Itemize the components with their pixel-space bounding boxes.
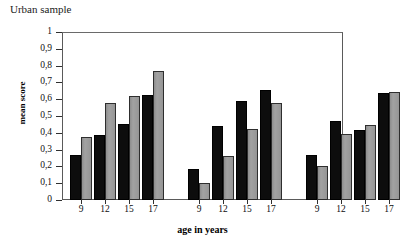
y-tick-label: 0,2 bbox=[0, 161, 52, 171]
bar-black bbox=[330, 121, 341, 200]
y-tick-mark bbox=[56, 200, 62, 201]
x-tick-label: 15 bbox=[234, 204, 260, 215]
y-tick-label: 0,6 bbox=[0, 94, 52, 104]
y-tick-label: 0,1 bbox=[0, 178, 52, 188]
bar-gray bbox=[317, 166, 328, 200]
bar-black bbox=[94, 135, 105, 200]
bar-black bbox=[260, 90, 271, 200]
bar-black bbox=[236, 101, 247, 200]
x-axis-title: age in years bbox=[62, 224, 343, 235]
bar-black bbox=[142, 95, 153, 200]
x-tick-label: 12 bbox=[328, 204, 354, 215]
x-tick-label: 9 bbox=[186, 204, 212, 215]
bar-gray bbox=[341, 134, 352, 200]
bar-black bbox=[354, 130, 365, 200]
bar-gray bbox=[105, 103, 116, 200]
x-tick-label: 9 bbox=[68, 204, 94, 215]
y-tick-label: 0,4 bbox=[0, 128, 52, 138]
bar-black bbox=[188, 169, 199, 200]
bar-black bbox=[212, 126, 223, 200]
bar-gray bbox=[271, 103, 282, 200]
bar-gray bbox=[199, 183, 210, 200]
plot-area bbox=[62, 32, 343, 200]
bar-black bbox=[70, 155, 81, 200]
x-tick-label: 17 bbox=[258, 204, 284, 215]
y-tick-label: 0,9 bbox=[0, 44, 52, 54]
bar-black bbox=[378, 93, 389, 200]
x-tick-label: 9 bbox=[304, 204, 330, 215]
bar-black bbox=[118, 124, 129, 200]
y-tick-label: 0,8 bbox=[0, 61, 52, 71]
bar-gray bbox=[247, 129, 258, 200]
bar-gray bbox=[153, 71, 164, 200]
x-tick-label: 15 bbox=[116, 204, 142, 215]
x-tick-label: 17 bbox=[376, 204, 402, 215]
x-tick-label: 15 bbox=[352, 204, 378, 215]
y-tick-label: 0,7 bbox=[0, 77, 52, 87]
y-tick-label: 0 bbox=[0, 195, 52, 205]
bar-black bbox=[306, 155, 317, 200]
x-tick-label: 17 bbox=[140, 204, 166, 215]
bar-gray bbox=[223, 156, 234, 200]
bar-gray bbox=[365, 125, 376, 200]
bar-gray bbox=[81, 137, 92, 200]
y-tick-label: 0,3 bbox=[0, 145, 52, 155]
bar-gray bbox=[129, 96, 140, 200]
x-tick-label: 12 bbox=[92, 204, 118, 215]
x-tick-label: 12 bbox=[210, 204, 236, 215]
y-tick-label: 1 bbox=[0, 27, 52, 37]
bar-gray bbox=[389, 92, 400, 200]
y-tick-label: 0,5 bbox=[0, 111, 52, 121]
